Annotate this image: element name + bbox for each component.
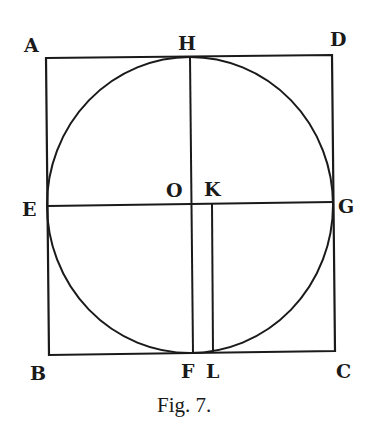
- label-h: H: [178, 32, 196, 54]
- label-k: K: [204, 178, 222, 200]
- label-c: C: [336, 360, 351, 382]
- label-o: O: [166, 179, 183, 201]
- geometry-figure: A H D E O K G B F L C Fig. 7.: [0, 0, 379, 439]
- label-f: F: [181, 360, 195, 382]
- figure-caption: Fig. 7.: [157, 393, 211, 417]
- label-g: G: [338, 195, 354, 217]
- segment-kl: [212, 204, 213, 352]
- label-l: L: [206, 360, 219, 382]
- label-a: A: [23, 34, 39, 56]
- label-b: B: [30, 362, 46, 384]
- label-e: E: [22, 198, 36, 220]
- label-d: D: [330, 28, 346, 50]
